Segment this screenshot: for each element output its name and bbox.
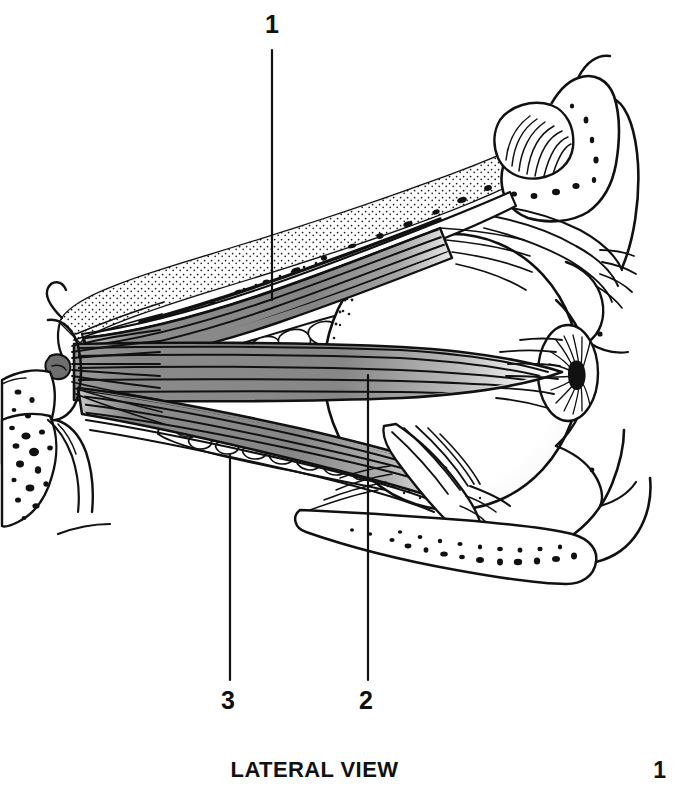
orbit-lateral-view-illustration <box>0 0 680 795</box>
lacrimal-gland <box>494 103 573 179</box>
label-1: 1 <box>265 12 279 37</box>
label-2: 2 <box>359 688 373 713</box>
caption-row: LATERAL VIEW 1 <box>0 757 680 793</box>
pupil <box>568 360 586 390</box>
page-number: 1 <box>653 757 666 783</box>
figure-caption: LATERAL VIEW <box>0 757 629 783</box>
label-3: 3 <box>221 688 235 713</box>
anatomical-figure: 1 2 3 LATERAL VIEW 1 <box>0 0 680 795</box>
